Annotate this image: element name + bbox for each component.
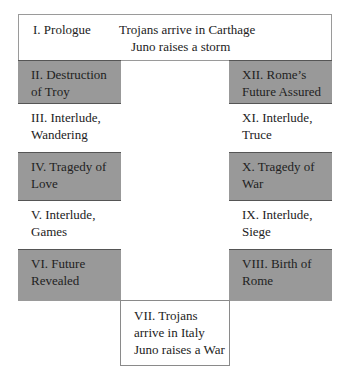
book-9-line-1: IX. Interlude,	[242, 206, 332, 223]
book-8-cell: VIII. Birth of Rome	[229, 249, 332, 300]
left-column: II. Destruction of Troy III. Interlude, …	[18, 60, 121, 301]
book-7-box: VII. Trojans arrive in Italy Juno raises…	[120, 300, 230, 366]
book-5-line-2: Games	[31, 223, 121, 240]
book-11-line-1: XI. Interlude,	[242, 109, 332, 126]
right-column: XII. Rome’s Future Assured XI. Interlude…	[229, 60, 332, 301]
book-9-cell: IX. Interlude, Siege	[229, 200, 332, 249]
book-10-line-1: X. Tragedy of	[242, 158, 332, 175]
book-6-cell: VI. Future Revealed	[18, 249, 121, 300]
book-5-cell: V. Interlude, Games	[18, 200, 121, 249]
book-11-cell: XI. Interlude, Truce	[229, 103, 332, 152]
book-2-line-2: of Troy	[31, 83, 121, 100]
book-11-line-2: Truce	[242, 126, 332, 143]
book-10-cell: X. Tragedy of War	[229, 152, 332, 200]
book-12-line-2: Future Assured	[242, 83, 332, 100]
book-6-line-1: VI. Future	[31, 255, 121, 272]
book-9-line-2: Siege	[242, 223, 332, 240]
book-7-line-2: arrive in Italy	[134, 324, 229, 341]
book-5-line-1: V. Interlude,	[31, 206, 121, 223]
book-3-cell: III. Interlude, Wandering	[18, 103, 121, 152]
book-7-line-1: VII. Trojans	[134, 307, 229, 324]
prologue-line-2: Juno raises a storm	[131, 38, 230, 55]
prologue-label: I. Prologue	[33, 21, 91, 38]
book-7-line-3: Juno raises a War	[134, 341, 229, 358]
book-3-line-1: III. Interlude,	[31, 109, 121, 126]
prologue-box: I. Prologue Trojans arrive in Carthage J…	[18, 14, 332, 61]
book-8-line-1: VIII. Birth of	[242, 255, 332, 272]
book-2-cell: II. Destruction of Troy	[18, 60, 121, 104]
book-10-line-2: War	[242, 175, 332, 192]
book-4-cell: IV. Tragedy of Love	[18, 152, 121, 200]
book-4-line-2: Love	[31, 175, 121, 192]
book-12-cell: XII. Rome’s Future Assured	[229, 60, 332, 104]
book-4-line-1: IV. Tragedy of	[31, 158, 121, 175]
book-6-line-2: Revealed	[31, 272, 121, 289]
book-3-line-2: Wandering	[31, 126, 121, 143]
book-8-line-2: Rome	[242, 272, 332, 289]
prologue-line-1: Trojans arrive in Carthage	[119, 21, 255, 38]
book-2-line-1: II. Destruction	[31, 66, 121, 83]
book-12-line-1: XII. Rome’s	[242, 66, 332, 83]
